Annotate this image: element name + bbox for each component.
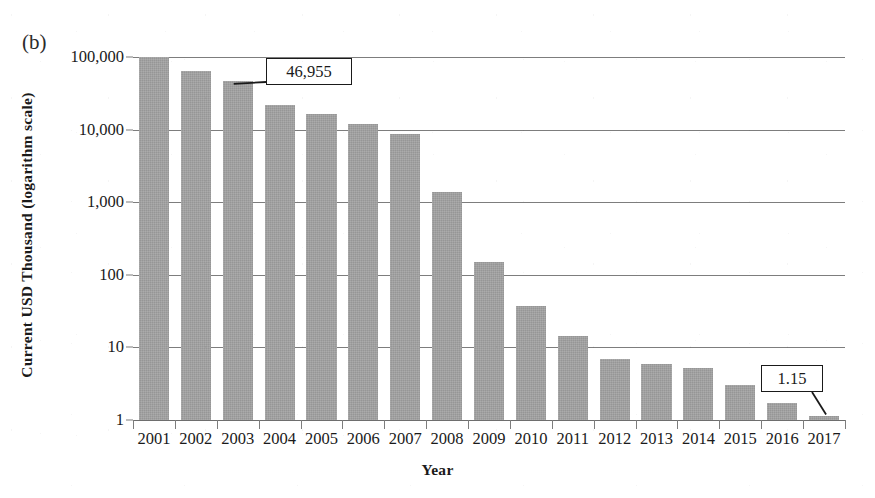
y-tick-label-10: 10 bbox=[108, 337, 125, 357]
y-axis-title-wrapper: Current USD Thousand (logarithm scale) bbox=[14, 35, 40, 435]
bar-2002 bbox=[181, 71, 211, 420]
bar-2003 bbox=[223, 81, 253, 420]
x-tick-mark bbox=[175, 420, 176, 429]
y-tick-label-100000: 100,000 bbox=[70, 47, 124, 67]
x-tick-mark bbox=[803, 420, 804, 429]
x-tick-label-2010: 2010 bbox=[514, 429, 547, 449]
x-tick-label-2008: 2008 bbox=[431, 429, 464, 449]
x-tick-label-2005: 2005 bbox=[305, 429, 338, 449]
x-tick-label-2003: 2003 bbox=[221, 429, 254, 449]
x-tick-label-2014: 2014 bbox=[682, 429, 715, 449]
x-tick-mark bbox=[594, 420, 595, 429]
x-tick-mark bbox=[426, 420, 427, 429]
x-tick-mark bbox=[510, 420, 511, 429]
y-tick-mark bbox=[126, 420, 133, 421]
bar-2015 bbox=[725, 385, 755, 420]
bar-2013 bbox=[641, 364, 671, 420]
x-tick-label-2004: 2004 bbox=[263, 429, 296, 449]
bar-2010 bbox=[516, 306, 546, 420]
y-tick-mark bbox=[126, 202, 133, 203]
x-tick-label-2006: 2006 bbox=[347, 429, 380, 449]
x-tick-mark bbox=[259, 420, 260, 429]
x-tick-label-2011: 2011 bbox=[557, 429, 589, 449]
bar-2005 bbox=[306, 114, 336, 420]
x-tick-mark bbox=[677, 420, 678, 429]
x-tick-mark bbox=[552, 420, 553, 429]
bar-2009 bbox=[474, 262, 504, 420]
x-tick-label-2016: 2016 bbox=[766, 429, 799, 449]
bar-2004 bbox=[265, 105, 295, 420]
y-tick-mark bbox=[126, 57, 133, 58]
x-tick-mark bbox=[845, 420, 846, 429]
x-tick-mark bbox=[342, 420, 343, 429]
data-label-callout-2003: 46,955 bbox=[266, 58, 352, 85]
x-tick-label-2002: 2002 bbox=[179, 429, 212, 449]
bar-2016 bbox=[767, 403, 797, 420]
x-tick-mark bbox=[468, 420, 469, 429]
x-tick-mark bbox=[761, 420, 762, 429]
data-label-callout-2017: 1.15 bbox=[761, 365, 823, 392]
x-tick-label-2012: 2012 bbox=[598, 429, 631, 449]
y-tick-label-100: 100 bbox=[99, 265, 124, 285]
x-tick-label-2007: 2007 bbox=[389, 429, 422, 449]
y-tick-label-1: 1 bbox=[116, 410, 124, 430]
x-tick-label-2017: 2017 bbox=[808, 429, 841, 449]
bar-2014 bbox=[683, 368, 713, 420]
x-tick-mark bbox=[217, 420, 218, 429]
bar-2012 bbox=[600, 359, 630, 420]
x-tick-mark bbox=[133, 420, 134, 429]
y-axis-title: Current USD Thousand (logarithm scale) bbox=[18, 92, 36, 378]
x-tick-mark bbox=[636, 420, 637, 429]
x-tick-mark bbox=[719, 420, 720, 429]
x-tick-mark bbox=[384, 420, 385, 429]
x-axis-title: Year bbox=[0, 461, 875, 479]
bar-2006 bbox=[348, 124, 378, 420]
y-tick-mark bbox=[126, 129, 133, 130]
bar-2007 bbox=[390, 134, 420, 420]
y-tick-mark bbox=[126, 274, 133, 275]
y-tick-label-1000: 1,000 bbox=[87, 192, 124, 212]
bar-2008 bbox=[432, 192, 462, 420]
y-tick-mark bbox=[126, 347, 133, 348]
x-tick-label-2009: 2009 bbox=[473, 429, 506, 449]
bar-2001 bbox=[139, 57, 169, 420]
x-axis-tick-labels: 2001200220032004200520062007200820092010… bbox=[133, 429, 845, 455]
x-tick-label-2015: 2015 bbox=[724, 429, 757, 449]
bar-2011 bbox=[558, 336, 588, 420]
x-tick-label-2013: 2013 bbox=[640, 429, 673, 449]
x-tick-mark bbox=[301, 420, 302, 429]
x-tick-label-2001: 2001 bbox=[137, 429, 170, 449]
y-tick-label-10000: 10,000 bbox=[79, 120, 124, 140]
gridline-100000 bbox=[133, 57, 845, 58]
plot-area: 1101001,00010,000100,000 bbox=[133, 57, 845, 420]
figure-panel-b: (b) Current USD Thousand (logarithm scal… bbox=[0, 0, 875, 498]
